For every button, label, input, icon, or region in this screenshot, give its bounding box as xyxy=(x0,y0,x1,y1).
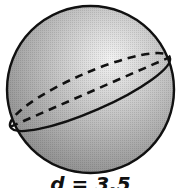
sphere-diagram: d = 3.5 xyxy=(0,0,181,188)
diameter-label: d = 3.5 xyxy=(0,174,181,188)
sphere-svg xyxy=(0,0,181,188)
